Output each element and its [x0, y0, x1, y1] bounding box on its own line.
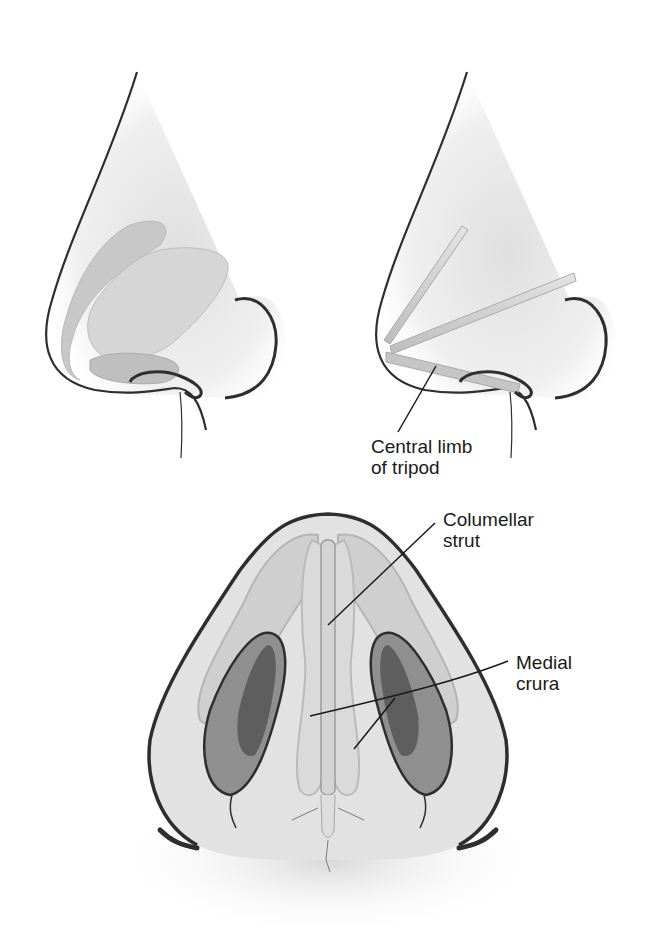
- label-columellar-strut: Columellar strut: [443, 509, 534, 551]
- skin-shading: [376, 72, 616, 400]
- label-line-2: strut: [443, 530, 534, 551]
- label-line-1: Columellar: [443, 509, 534, 530]
- label-line-1: Central limb: [371, 436, 472, 457]
- skin-shading: [46, 72, 286, 400]
- lip-line: [180, 392, 182, 458]
- label-line-2: crura: [516, 673, 572, 694]
- label-central-limb-of-tripod: Central limb of tripod: [371, 436, 472, 478]
- basal-view: [128, 514, 528, 930]
- label-line-1: Medial: [516, 652, 572, 673]
- label-line-2: of tripod: [371, 457, 472, 478]
- lip-line: [510, 392, 512, 458]
- columellar-strut: [321, 540, 335, 795]
- label-medial-crura: Medial crura: [516, 652, 572, 694]
- lateral-view-right: [376, 72, 616, 458]
- illustration-canvas: [0, 0, 658, 943]
- lateral-view-left: [46, 72, 286, 458]
